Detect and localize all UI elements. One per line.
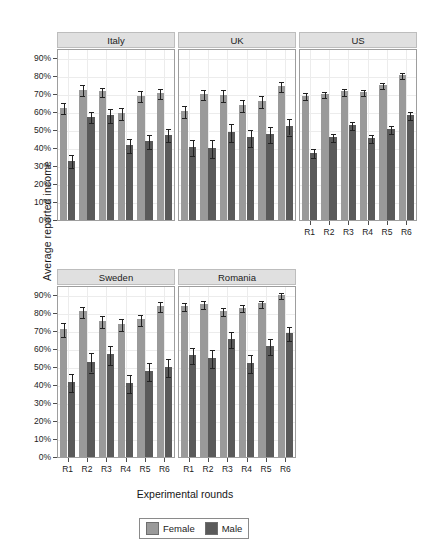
x-tick-mark (310, 221, 311, 225)
error-bar-cap (108, 109, 113, 110)
panel-strip-uk: UK (178, 32, 296, 48)
error-bar-cap (61, 323, 66, 324)
legend-label-female: Female (163, 523, 195, 534)
bar-male (145, 141, 152, 220)
x-tick-label: R3 (222, 464, 233, 474)
legend: Female Male (139, 518, 249, 539)
y-tick-label: 0% (39, 215, 51, 225)
error-bar-cap (127, 139, 132, 140)
error-bar-cap (158, 312, 163, 313)
x-tick-mark (387, 221, 388, 225)
bar-male (189, 147, 196, 220)
error-bar (72, 155, 73, 168)
y-tick-label: 60% (34, 107, 51, 117)
bar-male (247, 137, 254, 220)
bar-female (118, 324, 125, 457)
error-bar-cap (147, 149, 152, 150)
error-bar-cap (400, 73, 405, 74)
error-bar-cap (100, 88, 105, 89)
panel-strip-romania: Romania (178, 269, 296, 285)
error-bar-cap (138, 326, 143, 327)
x-tick-mark (329, 221, 330, 225)
error-bar (102, 88, 103, 97)
x-tick-mark (247, 458, 248, 462)
error-bar (289, 327, 290, 341)
x-tick-label: R2 (203, 464, 214, 474)
error-bar-cap (119, 120, 124, 121)
x-tick-mark (208, 458, 209, 462)
error-bar-cap (229, 142, 234, 143)
x-tick-label: R2 (324, 227, 335, 237)
error-bar (231, 124, 232, 142)
bar-female (181, 111, 188, 220)
error-bar-cap (279, 82, 284, 83)
y-tick-label: 60% (34, 344, 51, 354)
bar-male (107, 354, 114, 457)
panel-romania: Romania (178, 269, 296, 458)
error-bar-cap (127, 393, 132, 394)
bar-female (360, 92, 367, 220)
error-bar-cap (311, 149, 316, 150)
error-bar-cap (268, 339, 273, 340)
error-bar (83, 85, 84, 95)
error-bar-cap (190, 156, 195, 157)
error-bar (91, 112, 92, 124)
error-bar-cap (268, 127, 273, 128)
x-tick-mark (87, 458, 88, 462)
error-bar-cap (408, 120, 413, 121)
bar-male (247, 363, 254, 457)
x-tick-label: R6 (159, 464, 170, 474)
error-bar-cap (380, 83, 385, 84)
bar-female (399, 75, 406, 220)
bar-female (220, 311, 227, 457)
bar-male (266, 134, 273, 220)
error-bar-cap (89, 373, 94, 374)
error-bar-cap (210, 350, 215, 351)
error-bar-cap (210, 368, 215, 369)
legend-swatch-male (205, 522, 218, 535)
error-bar-cap (361, 90, 366, 91)
panel-us: US (299, 32, 417, 221)
y-axis-bottom-row: 0%10%20%30%40%50%60%70%80%90% (0, 286, 57, 458)
plot-area-sweden (57, 286, 175, 458)
error-bar-cap (287, 341, 292, 342)
bar-male (107, 115, 114, 220)
error-bar-cap (240, 312, 245, 313)
error-bar (251, 355, 252, 373)
error-bar-cap (287, 119, 292, 120)
error-bar (193, 348, 194, 364)
error-bar (243, 100, 244, 112)
x-tick-label: R5 (140, 464, 151, 474)
bar-male (68, 382, 75, 457)
bar-male (165, 135, 172, 221)
x-tick-mark (126, 458, 127, 462)
bar-female (220, 95, 227, 220)
error-bar-cap (322, 92, 327, 93)
panel-strip-us: US (299, 32, 417, 48)
x-tick-mark (368, 221, 369, 225)
legend-swatch-female (146, 522, 159, 535)
error-bar-cap (268, 355, 273, 356)
x-tick-mark (145, 458, 146, 462)
x-tick-label: R3 (101, 464, 112, 474)
bar-male (329, 137, 336, 220)
bar-female (278, 295, 285, 457)
error-bar (122, 108, 123, 120)
y-tick-label: 10% (34, 197, 51, 207)
x-tick-mark (189, 458, 190, 462)
error-bar-cap (119, 331, 124, 332)
bar-male (228, 339, 235, 457)
error-bar-cap (322, 98, 327, 99)
error-bar-cap (61, 114, 66, 115)
error-bar-cap (147, 363, 152, 364)
panel-italy: Italy (57, 32, 175, 221)
bar-male (407, 115, 414, 220)
error-bar (64, 103, 65, 114)
error-bar (243, 305, 244, 312)
error-bar-cap (69, 374, 74, 375)
plot-area-italy (57, 49, 175, 221)
faceted-bar-chart: Average reported income Experimental rou… (0, 0, 446, 555)
error-bar-cap (287, 136, 292, 137)
error-bar (72, 374, 73, 392)
y-tick-label: 20% (34, 416, 51, 426)
